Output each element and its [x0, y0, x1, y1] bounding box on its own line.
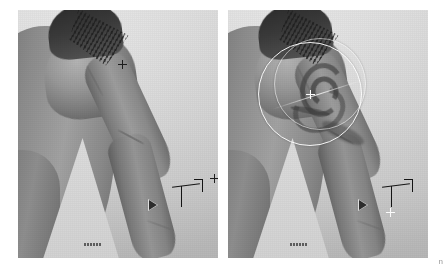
corner-mark: n [439, 257, 442, 266]
panel-before[interactable] [18, 10, 218, 258]
film-grain [18, 10, 218, 258]
film-grain [228, 10, 428, 258]
panel-after[interactable] [228, 10, 428, 258]
comparison-canvas: n [0, 0, 445, 272]
